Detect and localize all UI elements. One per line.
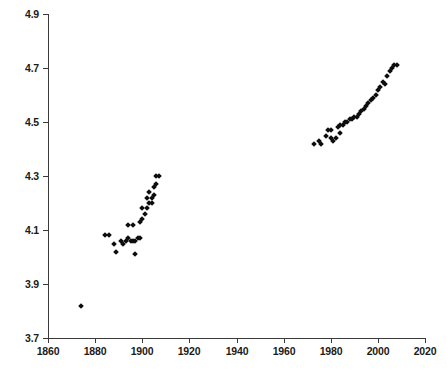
data-point [318,141,324,147]
data-point [328,127,334,133]
data-point [130,222,136,228]
data-point [132,251,138,257]
scatter-chart: 3.73.94.14.34.54.74.9 186018801900192019… [0,0,447,378]
data-point [106,233,112,239]
data-point [337,130,343,136]
data-point [111,241,117,247]
plot-area [0,0,447,378]
data-point [78,303,84,309]
data-point [384,73,390,79]
data-point [113,249,119,255]
data-point [142,211,148,217]
data-point [154,181,160,187]
